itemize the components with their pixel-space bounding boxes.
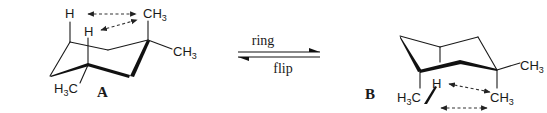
ch3-axial-label: CH3: [143, 6, 167, 23]
conformer-label-a: A: [97, 84, 108, 100]
bond: [478, 37, 497, 70]
equilibrium-top-label: ring: [252, 33, 275, 48]
conformer-label-b: B: [365, 86, 375, 102]
conformer-a: H H CH3 CH3 H3C A: [50, 6, 197, 100]
interaction-arrow: [101, 20, 137, 30]
ch3-axial-label: CH3: [490, 90, 514, 107]
h-label: H: [84, 24, 93, 39]
bold-bond: [460, 60, 497, 71]
ch3-right-label: CH3: [520, 58, 544, 75]
h3c-label: H3C: [54, 81, 78, 98]
bond: [70, 42, 108, 50]
bold-bond: [87, 63, 130, 78]
ring-flip-diagram: H H CH3 CH3 H3C A ring flip: [0, 0, 547, 113]
h-label: H: [65, 6, 74, 21]
interaction-arrow: [449, 84, 490, 92]
bond-methyl-right: [497, 63, 520, 70]
h3c-label: H3C: [397, 90, 421, 107]
bold-bond: [130, 40, 150, 77]
bond: [440, 37, 478, 47]
ch3-equatorial-label: CH3: [173, 44, 197, 61]
conformer-b: H CH3 CH3 H3C B: [365, 36, 544, 108]
bond-methyl-equatorial: [148, 40, 172, 49]
equilibrium-bottom-label: flip: [273, 61, 292, 76]
diagram-canvas: H H CH3 CH3 H3C A ring flip: [0, 0, 547, 113]
h-label: H: [432, 76, 441, 91]
bond: [400, 36, 440, 47]
bond: [108, 40, 148, 50]
ring-flip-equilibrium: ring flip: [238, 33, 320, 76]
